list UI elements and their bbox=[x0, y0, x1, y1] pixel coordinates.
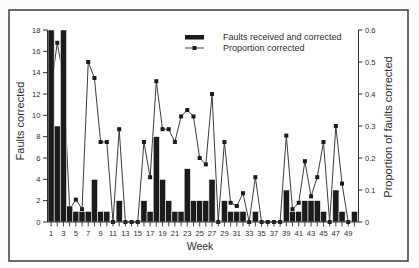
x-tick-label: 49 bbox=[344, 229, 352, 238]
marker-week-23 bbox=[185, 108, 189, 112]
bar-week-23 bbox=[184, 169, 190, 222]
bar-week-47 bbox=[333, 190, 339, 222]
bar-week-8 bbox=[91, 179, 97, 222]
bar-week-21 bbox=[172, 211, 178, 222]
x-tick-label: 15 bbox=[134, 229, 142, 238]
bar-week-29 bbox=[221, 201, 227, 222]
right-tick-label: 0.3 bbox=[365, 122, 376, 131]
x-tick-label: 7 bbox=[86, 229, 90, 238]
bar-week-22 bbox=[178, 211, 184, 222]
marker-week-34 bbox=[253, 175, 257, 179]
bar-week-17 bbox=[147, 211, 153, 222]
x-tick-label: 27 bbox=[208, 229, 216, 238]
x-tick-label: 37 bbox=[270, 229, 278, 238]
bar-week-12 bbox=[116, 201, 122, 222]
left-tick-label: 8 bbox=[36, 132, 40, 141]
marker-week-42 bbox=[303, 159, 307, 163]
marker-week-22 bbox=[179, 114, 183, 118]
marker-week-31 bbox=[235, 204, 239, 208]
marker-week-47 bbox=[334, 124, 338, 128]
marker-week-7 bbox=[86, 60, 90, 64]
left-tick-label: 4 bbox=[36, 175, 40, 184]
x-tick-label: 17 bbox=[146, 229, 154, 238]
bar-week-41 bbox=[296, 211, 302, 222]
x-tick-label: 45 bbox=[319, 229, 327, 238]
chart-canvas: 024681012141618 00.10.20.30.40.50.6 1357… bbox=[0, 0, 419, 268]
bar-week-40 bbox=[289, 211, 295, 222]
left-tick-label: 18 bbox=[32, 26, 40, 35]
bar-week-34 bbox=[252, 211, 258, 222]
marker-week-27 bbox=[210, 92, 214, 96]
x-tick-label: 1 bbox=[49, 229, 53, 238]
marker-week-29 bbox=[222, 140, 226, 144]
x-tick-label: 39 bbox=[282, 229, 290, 238]
marker-week-39 bbox=[284, 134, 288, 138]
right-tick-label: 0.1 bbox=[365, 186, 376, 195]
x-tick-label: 41 bbox=[294, 229, 302, 238]
bar-week-7 bbox=[85, 211, 91, 222]
marker-week-32 bbox=[241, 191, 245, 195]
bar-week-32 bbox=[240, 211, 246, 222]
marker-week-24 bbox=[191, 114, 195, 118]
left-tick-label: 14 bbox=[32, 68, 40, 77]
bar-week-45 bbox=[320, 211, 326, 222]
left-tick-label: 2 bbox=[36, 196, 40, 205]
left-tick-label: 0 bbox=[36, 218, 40, 227]
bar-week-18 bbox=[153, 137, 159, 222]
left-tick-label: 6 bbox=[36, 154, 40, 163]
bar-week-50 bbox=[351, 211, 357, 222]
marker-week-9 bbox=[99, 140, 103, 144]
x-tick-label: 23 bbox=[183, 229, 191, 238]
right-tick-label: 0.5 bbox=[365, 58, 376, 67]
bar-week-6 bbox=[79, 211, 85, 222]
left-axis-title: Faults corrected bbox=[14, 82, 26, 161]
marker-week-8 bbox=[92, 76, 96, 80]
marker-week-16 bbox=[142, 140, 146, 144]
bar-week-2 bbox=[54, 126, 60, 222]
marker-week-21 bbox=[173, 140, 177, 144]
right-axis-title: Proportion of faults corrected bbox=[382, 56, 394, 197]
x-axis-title: Week bbox=[187, 240, 214, 252]
left-tick-label: 10 bbox=[32, 111, 40, 120]
bar-week-4 bbox=[67, 206, 73, 222]
marker-week-19 bbox=[161, 127, 165, 131]
x-tick-label: 9 bbox=[99, 229, 103, 238]
marker-week-25 bbox=[198, 156, 202, 160]
bar-week-10 bbox=[104, 211, 110, 222]
bar-week-42 bbox=[302, 201, 308, 222]
bar-week-1 bbox=[48, 30, 54, 222]
bar-week-24 bbox=[190, 201, 196, 222]
marker-week-43 bbox=[309, 194, 313, 198]
x-tick-label: 5 bbox=[74, 229, 78, 238]
marker-week-18 bbox=[154, 79, 158, 83]
legend-label-proportion: Proportion corrected bbox=[223, 43, 305, 53]
x-tick-label: 33 bbox=[245, 229, 253, 238]
marker-week-41 bbox=[297, 201, 301, 205]
marker-week-30 bbox=[229, 201, 233, 205]
bar-week-30 bbox=[228, 211, 234, 222]
bar-week-9 bbox=[98, 211, 104, 222]
bar-week-48 bbox=[339, 211, 345, 222]
bar-week-16 bbox=[141, 201, 147, 222]
marker-week-48 bbox=[340, 182, 344, 186]
right-tick-label: 0.2 bbox=[365, 154, 376, 163]
bar-week-26 bbox=[203, 201, 209, 222]
marker-week-12 bbox=[117, 127, 121, 131]
x-tick-label: 21 bbox=[171, 229, 179, 238]
legend-label-faults: Faults received and corrected bbox=[223, 32, 342, 42]
bar-week-25 bbox=[197, 201, 203, 222]
x-tick-label: 11 bbox=[109, 229, 117, 238]
right-tick-label: 0.6 bbox=[365, 26, 376, 35]
bar-week-39 bbox=[283, 190, 289, 222]
left-tick-label: 12 bbox=[32, 90, 40, 99]
x-tick-label: 19 bbox=[158, 229, 166, 238]
x-tick-label: 13 bbox=[121, 229, 129, 238]
marker-week-17 bbox=[148, 175, 152, 179]
x-tick-label: 29 bbox=[220, 229, 228, 238]
marker-week-44 bbox=[315, 175, 319, 179]
bar-week-43 bbox=[308, 201, 314, 222]
bar-week-44 bbox=[314, 201, 320, 222]
x-tick-label: 25 bbox=[195, 229, 203, 238]
marker-week-45 bbox=[321, 140, 325, 144]
x-tick-label: 35 bbox=[257, 229, 265, 238]
